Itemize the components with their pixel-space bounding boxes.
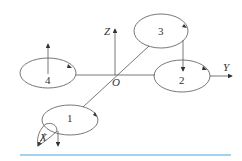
rotor-3: 3 — [134, 14, 188, 71]
origin-label: O — [112, 76, 120, 88]
rotor-1: 1 — [37, 105, 98, 146]
rotor-3-label: 3 — [158, 25, 164, 37]
rotor-4: 4 — [20, 44, 76, 88]
x-axis: X — [38, 46, 149, 146]
z-axis-label: Z — [104, 25, 111, 37]
rotor-4-label: 4 — [45, 74, 51, 86]
x-axis-label: X — [39, 131, 48, 143]
y-axis-label: Y — [223, 61, 231, 73]
rotor-2-label: 2 — [179, 74, 185, 86]
rotor-1-label: 1 — [67, 112, 73, 124]
z-axis: Z — [104, 25, 115, 75]
rotor-2: 2 — [154, 60, 210, 92]
quadrotor-diagram: Z Y X O 3 2 4 1 — [0, 0, 242, 161]
